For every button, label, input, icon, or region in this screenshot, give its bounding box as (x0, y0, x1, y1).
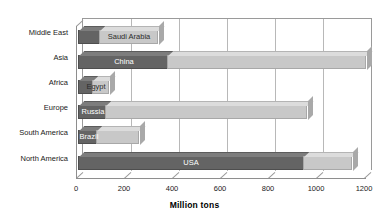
x-tick-800: 800 (253, 185, 283, 193)
x-tick-0: 0 (61, 185, 91, 193)
y-axis-label-middle-east: Middle East (29, 29, 68, 37)
bar-segment-dark-middle-east (78, 30, 100, 44)
y-axis-label-south-america: South America (19, 129, 68, 137)
bar-segment-dark-africa (78, 80, 93, 94)
bar-segment-light-south-america (96, 130, 139, 144)
bar-segment-light-europe (105, 105, 307, 119)
x-tick-400: 400 (157, 185, 187, 193)
bar-segment-dark-south-america (78, 130, 97, 144)
x-tick-1000: 1000 (301, 185, 331, 193)
bars-layer: Saudi Arabia China Egypt (76, 18, 372, 178)
x-axis-line (76, 178, 366, 179)
x-tick-600: 600 (205, 185, 235, 193)
bar-segment-dark-asia (78, 55, 168, 69)
y-axis-label-north-america: North America (20, 155, 68, 163)
bar-segment-dark-north-america (78, 156, 304, 170)
bar-segment-light-north-america (303, 156, 352, 170)
bar-segment-dark-europe (78, 105, 106, 119)
bar-segment-light-africa (92, 80, 109, 94)
x-tick-200: 200 (109, 185, 139, 193)
y-axis-label-africa: Africa (49, 79, 68, 87)
x-axis-title: Million tons (0, 200, 389, 210)
bar-segment-light-asia (167, 55, 366, 69)
x-tick-1200: 1200 (349, 185, 379, 193)
bar-chart: Middle East Asia Africa Europe South Ame… (0, 0, 389, 222)
y-axis-label-asia: Asia (53, 54, 68, 62)
bar-segment-light-middle-east (99, 30, 158, 44)
x-axis-ticks: 0 200 400 600 800 1000 1200 (0, 185, 389, 199)
y-axis-label-europe: Europe (44, 104, 68, 112)
